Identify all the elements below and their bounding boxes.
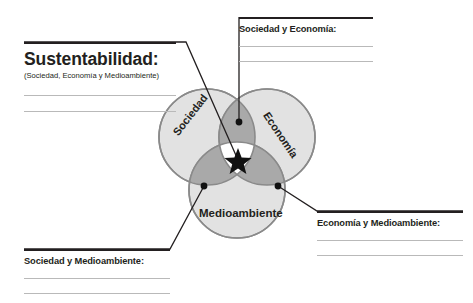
block-title-sustentabilidad: Sustentabilidad: <box>24 44 176 70</box>
answer-line-sustentabilidad-1[interactable] <box>24 95 176 96</box>
block-sociedad-medioambiente: Sociedad y Medioambiente: <box>24 249 170 294</box>
answer-line-sustentabilidad-2[interactable] <box>24 111 176 112</box>
block-title-economia-medioambiente: Economía y Medioambiente: <box>317 213 463 230</box>
leader-dot-sociedad-economia <box>236 119 243 126</box>
answer-line-sociedad-medioambiente-2[interactable] <box>24 293 170 294</box>
answer-line-economia-medioambiente-2[interactable] <box>317 255 463 256</box>
leader-line-sociedad-medioambiente <box>24 186 204 249</box>
block-sociedad-economia: Sociedad y Economía: <box>239 17 373 62</box>
block-subtitle-sustentabilidad: (Sociedad, Economía y Medioambiente) <box>24 70 176 82</box>
worksheet-page: Sociedad Economía Medioambiente Sustenta… <box>0 0 473 303</box>
block-title-sociedad-economia: Sociedad y Economía: <box>239 19 373 36</box>
leader-line-economia-medioambiente <box>278 186 463 211</box>
block-economia-medioambiente: Economía y Medioambiente: <box>317 211 463 256</box>
block-title-sociedad-medioambiente: Sociedad y Medioambiente: <box>24 251 170 268</box>
block-sustentabilidad: Sustentabilidad: (Sociedad, Economía y M… <box>24 42 176 112</box>
leader-dot-sociedad-medioambiente <box>201 183 208 190</box>
circle-label-medioambiente: Medioambiente <box>199 207 283 219</box>
answer-line-sociedad-medioambiente-1[interactable] <box>24 278 170 279</box>
leader-dot-economia-medioambiente <box>275 183 282 190</box>
answer-line-sociedad-economia-1[interactable] <box>239 46 373 47</box>
answer-line-sociedad-economia-2[interactable] <box>239 61 373 62</box>
answer-line-economia-medioambiente-1[interactable] <box>317 240 463 241</box>
